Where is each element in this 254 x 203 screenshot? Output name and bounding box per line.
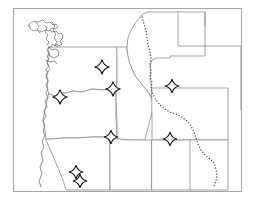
island-vancouver [29,20,58,32]
state-divider-montana-north [178,12,241,46]
state-boundaries [43,12,241,190]
state-oregon [43,88,117,139]
state-wyoming [152,88,228,140]
map-canvas [0,0,254,203]
map-container [0,0,254,203]
state-utah [110,137,152,190]
